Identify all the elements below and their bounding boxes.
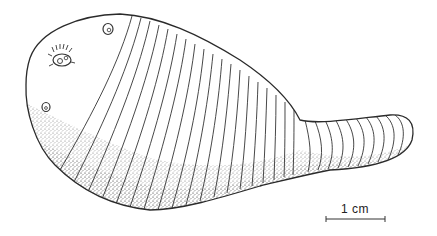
eye-spot-upper-icon: [103, 24, 113, 35]
fringed-sensory-organ-icon: [48, 44, 75, 66]
scale-bar-label: 1 cm: [341, 202, 369, 216]
organism-illustration: [0, 0, 437, 236]
eye-spot-lower-icon: [42, 103, 50, 112]
scale-bar: [326, 216, 385, 222]
